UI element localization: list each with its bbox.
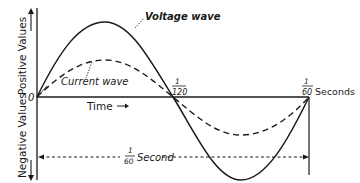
ac-wave-diagram: Positive Values Negative Values 0 Voltag… bbox=[0, 0, 360, 183]
tick-one-twentieth: 1 120 bbox=[172, 77, 187, 97]
svg-text:1: 1 bbox=[304, 77, 309, 86]
svg-text:120: 120 bbox=[172, 88, 187, 97]
voltage-leader-line bbox=[135, 18, 144, 28]
arrow-right-icon bbox=[303, 155, 309, 160]
svg-text:60: 60 bbox=[302, 88, 312, 97]
arrow-down-icon bbox=[28, 160, 34, 181]
tick-one-sixtieth: 1 60 Seconds bbox=[302, 77, 355, 97]
time-arrow-icon bbox=[117, 104, 129, 109]
arrow-left-icon bbox=[38, 155, 44, 160]
origin-label: 0 bbox=[28, 92, 34, 103]
svg-text:1: 1 bbox=[175, 77, 180, 86]
period-label: 1 60 Second bbox=[124, 146, 174, 166]
svg-text:Second: Second bbox=[137, 152, 174, 163]
negative-values-label: Negative Values bbox=[16, 93, 28, 178]
voltage-wave-label: Voltage wave bbox=[145, 11, 221, 22]
svg-text:1: 1 bbox=[128, 146, 133, 155]
current-wave-label: Current wave bbox=[61, 76, 129, 87]
svg-text:60: 60 bbox=[124, 157, 134, 166]
svg-text:Seconds: Seconds bbox=[315, 86, 355, 97]
time-axis-label: Time bbox=[86, 100, 113, 112]
positive-values-label: Positive Values bbox=[16, 17, 28, 95]
arrow-up-icon bbox=[28, 8, 34, 31]
